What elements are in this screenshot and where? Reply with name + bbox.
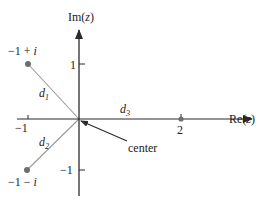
segment-label-d3: d3 <box>120 102 130 118</box>
complex-plane-diagram: Im(z) Re(z) −1 2 1 −1 −1 + i −1 − i d1 d… <box>0 0 266 205</box>
point-label-neg1-plus-i: −1 + i <box>8 44 37 58</box>
tick-label-y-neg1: −1 <box>60 163 73 177</box>
point-2 <box>178 116 183 121</box>
tick-label-x-neg1: −1 <box>15 121 28 135</box>
tick-label-y-1: 1 <box>70 58 76 72</box>
tick-label-x-2: 2 <box>177 123 183 137</box>
segment-label-d1: d1 <box>39 86 49 102</box>
segment-label-d2: d2 <box>39 135 49 151</box>
imaginary-axis-label: Im(z) <box>68 10 94 24</box>
point-neg1-plus-i <box>25 61 31 67</box>
center-annotation-label: center <box>128 141 157 155</box>
segment-d1 <box>28 64 79 119</box>
real-axis-label: Re(z) <box>229 112 255 126</box>
center-pointer-arrow <box>81 121 127 141</box>
point-label-neg1-minus-i: −1 − i <box>8 175 37 189</box>
point-neg1-minus-i <box>24 167 30 173</box>
